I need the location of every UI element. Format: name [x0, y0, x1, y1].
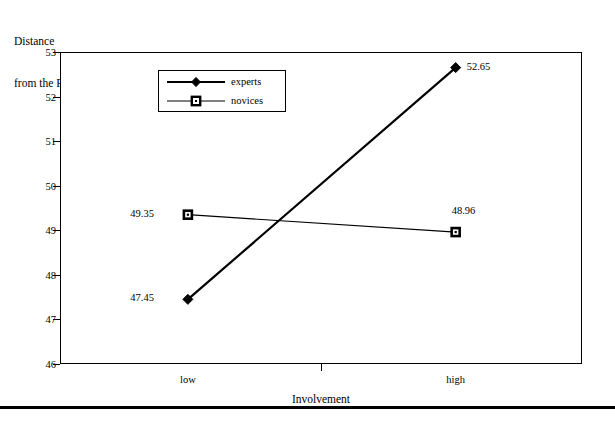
- point-label-novices-high: 48.96: [452, 205, 476, 216]
- y-axis-title-line-1: Distance: [14, 34, 73, 48]
- y-tick-label: 48: [46, 269, 57, 280]
- legend-label-experts: experts: [231, 76, 261, 87]
- legend-label-novices: novices: [231, 95, 263, 106]
- point-label-experts-high: 52.65: [467, 61, 491, 72]
- legend-item-novices[interactable]: novices: [159, 91, 285, 110]
- y-tick-label: 46: [46, 359, 57, 370]
- y-tick-label: 47: [46, 314, 57, 325]
- series-novices: [184, 211, 460, 236]
- point-label-experts-low: 47.45: [130, 292, 154, 303]
- x-category-label-high: high: [446, 374, 465, 385]
- diamond-marker-icon: [165, 74, 227, 90]
- y-tick-label: 50: [46, 180, 57, 191]
- legend-item-experts[interactable]: experts: [159, 72, 285, 91]
- square-marker-icon: [165, 93, 227, 109]
- y-tick-label: 52: [46, 91, 57, 102]
- x-tick-mark-center: [321, 364, 322, 371]
- chart-legend: experts novices: [158, 70, 286, 112]
- point-label-novices-low: 49.35: [130, 208, 154, 219]
- y-tick-label: 53: [46, 47, 57, 58]
- x-axis-title: Involvement: [292, 393, 350, 405]
- x-category-label-low: low: [180, 374, 196, 385]
- y-tick-label: 51: [46, 136, 57, 147]
- y-tick-label: 49: [46, 225, 57, 236]
- plot-area: 5352515049484746 lowhigh Involvement 47.…: [60, 52, 582, 364]
- bottom-divider-rule: [0, 406, 615, 409]
